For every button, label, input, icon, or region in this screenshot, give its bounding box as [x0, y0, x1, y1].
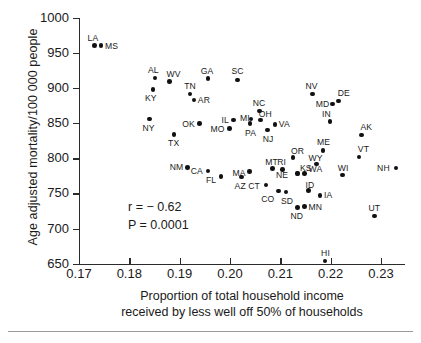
data-point — [296, 171, 301, 176]
data-point — [247, 169, 252, 174]
y-tick-label: 1000 — [0, 10, 69, 25]
y-tick — [73, 18, 79, 19]
x-tick-label: 0.23 — [351, 266, 411, 281]
y-tick — [73, 193, 79, 194]
data-point — [185, 165, 190, 170]
data-point-label: MS — [105, 41, 118, 51]
footer-divider — [8, 331, 413, 332]
data-point-label: UT — [368, 203, 380, 213]
data-point-label: WI — [338, 163, 349, 173]
x-tick — [79, 258, 80, 264]
data-point-label: WA — [309, 164, 323, 174]
data-point — [206, 169, 211, 174]
x-tick — [180, 258, 181, 264]
data-point — [295, 205, 300, 210]
y-tick — [73, 229, 79, 230]
data-point-label: ND — [290, 211, 303, 221]
data-point-label: IA — [324, 190, 332, 200]
data-point-label: ID — [306, 180, 315, 190]
data-point-label: NH — [377, 163, 390, 173]
data-point — [372, 214, 377, 219]
data-point-label: CT — [248, 181, 260, 191]
data-point — [340, 173, 345, 178]
data-point — [206, 76, 211, 81]
y-tick — [73, 53, 79, 54]
data-point — [284, 190, 289, 195]
y-tick-label: 700 — [0, 221, 69, 236]
y-tick-label: 900 — [0, 80, 69, 95]
data-point-label: MN — [309, 202, 323, 212]
pvalue-text: P = 0.0001 — [128, 216, 189, 234]
statistics-annotation: r = − 0.62 P = 0.0001 — [128, 198, 189, 234]
data-point — [192, 98, 197, 103]
data-point — [330, 102, 335, 107]
scatter-plot-figure: Age adjusted mortality/100 000 people 65… — [0, 0, 421, 343]
data-point — [302, 204, 307, 209]
data-point — [235, 78, 240, 83]
data-point-label: NY — [143, 123, 155, 133]
y-tick — [73, 123, 79, 124]
data-point-label: IN — [322, 109, 331, 119]
data-point-label: CA — [191, 166, 203, 176]
data-point-label: SC — [232, 66, 244, 76]
data-point — [197, 121, 202, 126]
y-tick-label: 750 — [0, 185, 69, 200]
data-point-label: RI — [277, 157, 286, 167]
x-axis-title-line1: Proportion of total household income — [79, 288, 405, 304]
y-tick — [73, 158, 79, 159]
data-point — [359, 133, 364, 138]
data-point-label: TX — [168, 138, 179, 148]
data-point — [328, 119, 333, 124]
data-point-label: NV — [306, 81, 318, 91]
x-tick — [280, 258, 281, 264]
data-point — [167, 79, 172, 84]
data-point — [336, 99, 341, 104]
data-point-label: MD — [316, 99, 330, 109]
data-point-label: WV — [167, 69, 181, 79]
data-point — [188, 92, 193, 97]
x-tick — [381, 258, 382, 264]
data-point — [323, 259, 328, 264]
correlation-text: r = − 0.62 — [128, 198, 189, 216]
y-tick — [73, 88, 79, 89]
data-point-label: MO — [211, 124, 225, 134]
data-point-label: VT — [358, 144, 369, 154]
data-point — [394, 166, 399, 171]
data-point — [99, 43, 104, 48]
data-point — [227, 126, 232, 131]
data-point-label: OH — [259, 109, 272, 119]
data-point-label: NC — [253, 98, 266, 108]
data-point — [151, 87, 156, 92]
x-axis-title: Proportion of total household income rec… — [79, 288, 405, 320]
x-tick — [230, 258, 231, 264]
data-point — [276, 189, 281, 194]
data-point — [270, 166, 275, 171]
data-point — [273, 122, 278, 127]
data-point — [147, 117, 152, 122]
data-point-label: SD — [281, 196, 293, 206]
data-point-label: MT — [265, 157, 278, 167]
data-point-label: OR — [291, 146, 304, 156]
x-tick — [331, 258, 332, 264]
data-point — [231, 118, 236, 123]
data-point-label: AR — [198, 95, 210, 105]
data-point-label: FL — [206, 175, 216, 185]
data-point — [248, 121, 253, 126]
data-point-label: OK — [182, 119, 195, 129]
data-point — [318, 193, 323, 198]
data-point-label: NE — [276, 170, 288, 180]
y-axis-line — [79, 18, 80, 264]
data-point-label: LA — [88, 33, 99, 43]
data-point — [219, 174, 224, 179]
data-point — [291, 155, 296, 160]
data-point-label: DE — [338, 88, 350, 98]
data-point-label: TN — [184, 81, 196, 91]
data-point — [265, 128, 270, 133]
data-point — [239, 175, 244, 180]
data-point-label: NM — [170, 162, 184, 172]
data-point — [302, 171, 307, 176]
y-tick-label: 800 — [0, 150, 69, 165]
data-point-label: AK — [360, 122, 372, 132]
data-point-label: HI — [321, 248, 330, 258]
data-point — [153, 76, 158, 81]
